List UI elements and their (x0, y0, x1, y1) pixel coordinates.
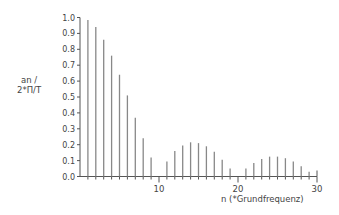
spectrum-bar-chart: 0.00.10.20.30.40.50.60.70.80.91.0 102030 (0, 0, 339, 215)
y-tick-label: 0.9 (62, 29, 75, 38)
x-tick-label: 20 (233, 184, 244, 194)
x-tick-label: 30 (312, 184, 323, 194)
y-tick-label: 0.0 (62, 173, 75, 182)
y-tick-label: 0.8 (62, 45, 75, 54)
y-tick-label: 0.1 (62, 157, 75, 166)
x-axis: 102030 (80, 171, 322, 194)
y-tick-label: 0.3 (62, 125, 75, 134)
bar-series (88, 20, 309, 177)
x-axis-label: n (*Grundfrequenz) (221, 194, 304, 204)
y-axis: 0.00.10.20.30.40.50.60.70.80.91.0 (62, 14, 80, 182)
y-axis-label-line2: 2*Π/T (17, 85, 41, 95)
x-tick-label: 10 (154, 184, 165, 194)
y-tick-label: 0.7 (62, 61, 75, 70)
y-tick-label: 0.5 (62, 93, 75, 102)
y-axis-label-line1: an / (17, 75, 41, 85)
y-tick-label: 0.6 (62, 77, 75, 86)
y-tick-label: 0.2 (62, 141, 75, 150)
y-axis-label: an / 2*Π/T (17, 75, 41, 95)
y-tick-label: 0.4 (62, 109, 75, 118)
y-tick-label: 1.0 (62, 14, 75, 23)
